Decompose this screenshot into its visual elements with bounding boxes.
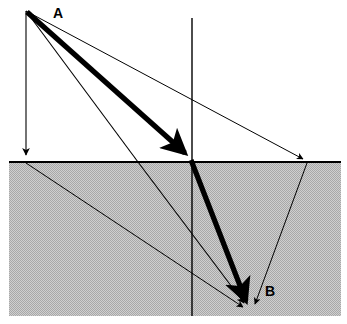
ray-path-figure: A B [0, 0, 347, 324]
receiver-label: B [265, 283, 275, 299]
direct-ray-upper [27, 12, 185, 153]
ray-diagram-canvas: A B [0, 0, 347, 324]
source-label: A [53, 5, 63, 21]
short-offset-ray-upper [26, 11, 138, 162]
